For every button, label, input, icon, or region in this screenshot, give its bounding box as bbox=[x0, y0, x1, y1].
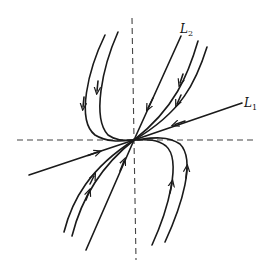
traj-arrow bbox=[97, 81, 98, 91]
label-l2-main: L bbox=[180, 22, 188, 36]
l2-arrow-upper bbox=[148, 98, 153, 108]
traj-arrow bbox=[186, 168, 187, 178]
label-l2: L2 bbox=[180, 23, 193, 38]
phase-portrait-diagram: L2 L1 bbox=[0, 0, 267, 269]
l1-arrow-lower bbox=[88, 152, 98, 156]
line-l2 bbox=[86, 36, 181, 250]
trajectory-lower-left-2 bbox=[72, 140, 134, 236]
label-l1-main: L bbox=[244, 96, 252, 110]
label-l1-sub: 1 bbox=[252, 103, 257, 112]
trajectory-upper-left-1 bbox=[85, 35, 134, 141]
trajectory-lower-right-1 bbox=[134, 140, 173, 245]
trajectory-lower-left-1 bbox=[64, 140, 134, 232]
trajectory-upper-left-2 bbox=[100, 32, 134, 140]
label-l1: L1 bbox=[244, 97, 257, 112]
phase-portrait-svg bbox=[0, 0, 267, 269]
label-l2-sub: 2 bbox=[188, 29, 193, 38]
traj-arrow bbox=[170, 183, 172, 193]
traj-arrow bbox=[83, 97, 84, 107]
